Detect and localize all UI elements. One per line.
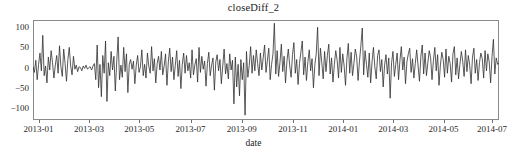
x-tick-mark xyxy=(39,120,40,123)
x-tick-mark xyxy=(343,120,344,123)
y-tick-label: 100 xyxy=(16,22,30,32)
x-tick-label: 2013-05 xyxy=(124,124,154,134)
x-tick-mark xyxy=(444,120,445,123)
y-tick-label: −100 xyxy=(10,103,29,113)
x-tick-label: 2014-05 xyxy=(429,124,459,134)
y-tick-label: −50 xyxy=(15,83,29,93)
x-axis-label: date xyxy=(0,138,507,148)
time-series-line xyxy=(33,20,499,120)
plot-area xyxy=(33,20,499,120)
x-tick-mark xyxy=(191,120,192,123)
x-tick-mark xyxy=(89,120,90,123)
x-tick-label: 2013-01 xyxy=(24,124,54,134)
chart-figure: closeDiff_2 100500−50−100 2013-012013-03… xyxy=(0,0,507,162)
x-tick-mark xyxy=(393,120,394,123)
x-tick-mark xyxy=(139,120,140,123)
x-tick-mark xyxy=(242,120,243,123)
x-tick-label: 2014-03 xyxy=(378,124,408,134)
y-tick-label: 0 xyxy=(25,63,30,73)
x-tick-label: 2013-03 xyxy=(74,124,104,134)
x-tick-label: 2013-11 xyxy=(278,124,308,134)
x-tick-mark xyxy=(293,120,294,123)
y-tick-label: 50 xyxy=(20,42,29,52)
x-tick-label: 2014-01 xyxy=(328,124,358,134)
x-tick-label: 2014-07 xyxy=(477,124,507,134)
chart-title: closeDiff_2 xyxy=(0,2,507,13)
x-tick-label: 2013-09 xyxy=(227,124,257,134)
y-axis-tick-labels: 100500−50−100 xyxy=(0,20,29,120)
x-tick-mark xyxy=(492,120,493,123)
x-tick-label: 2013-07 xyxy=(176,124,206,134)
